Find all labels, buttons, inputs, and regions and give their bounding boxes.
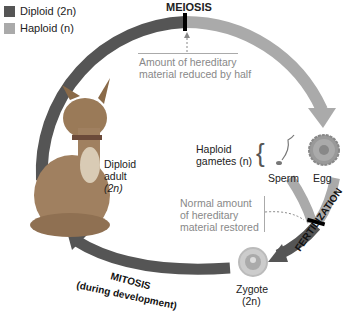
gametes-line1: Haploid	[196, 143, 232, 155]
meiosis-marker	[183, 13, 187, 31]
legend-diploid-label: Diploid (2n)	[20, 5, 76, 17]
adult-line2: adult	[104, 170, 127, 182]
haploid-arrowhead	[308, 108, 336, 128]
life-cycle-diagram: FERTILIZATION MITOSIS (during developmen…	[0, 0, 358, 315]
meiosis-label: MEIOSIS	[166, 1, 212, 13]
adult-line3: (2n)	[104, 182, 123, 194]
restored-line1: Normal amount	[180, 197, 252, 209]
legend-haploid: Haploid (n)	[4, 22, 74, 34]
zygote-icon	[239, 248, 267, 276]
zygote-label: Zygote	[236, 283, 268, 295]
legend-diploid: Diploid (2n)	[4, 5, 76, 17]
gametes-line2: gametes (n)	[196, 155, 252, 167]
restored-line2: of hereditary	[180, 209, 238, 221]
adult-line1: Diploid	[104, 158, 136, 170]
reduced-line2: material reduced by half	[139, 68, 251, 80]
reduced-divider	[138, 53, 238, 54]
egg-icon	[309, 135, 339, 165]
egg-label: Egg	[313, 172, 332, 184]
zygote-ploidy: (2n)	[242, 295, 261, 307]
sperm-icon	[276, 135, 294, 165]
mitosis-arc	[75, 240, 230, 269]
gametes-brace: {	[256, 140, 265, 166]
sperm-path	[290, 178, 312, 222]
restored-divider	[264, 196, 265, 232]
reduced-line1: Amount of hereditary	[139, 56, 236, 68]
haploid-swatch	[4, 23, 15, 34]
sperm-label: Sperm	[268, 172, 299, 184]
diploid-swatch	[4, 6, 15, 17]
restored-line3: material restored	[180, 221, 259, 233]
legend-haploid-label: Haploid (n)	[20, 22, 74, 34]
restored-pointer	[265, 212, 304, 220]
